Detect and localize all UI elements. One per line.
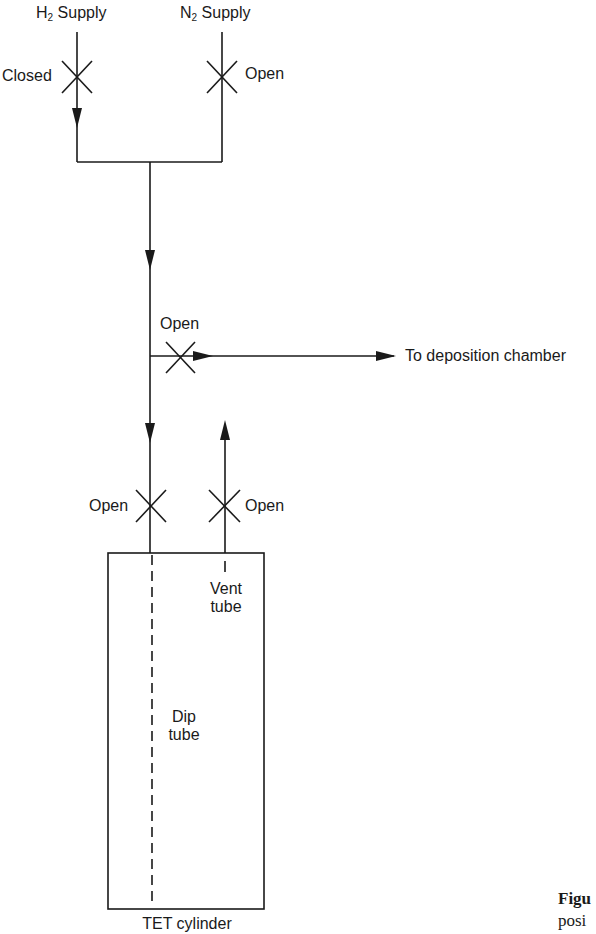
vent-tube-label: Vent tube [203, 580, 249, 616]
outlet-label: To deposition chamber [405, 347, 566, 365]
h2-valve-state-label: Closed [2, 67, 52, 85]
gas-flow-diagram [0, 0, 596, 934]
vent-flow-arrow-icon [220, 420, 230, 440]
figure-caption-fragment: Figu [558, 888, 591, 910]
outlet-arrow-icon [376, 351, 396, 361]
figure-caption-fragment-line2: posi [558, 910, 586, 932]
h2-flow-arrow-icon [72, 108, 82, 128]
n2-valve-state-label: Open [245, 65, 284, 83]
main-flow-arrow-upper-icon [145, 250, 155, 270]
vent-valve-state-label: Open [245, 497, 284, 515]
branch-flow-arrow-icon [193, 351, 213, 361]
dip-tube-label: Dip tube [162, 708, 206, 744]
n2-supply-label: N2 Supply [180, 4, 251, 22]
h2-supply-label: H2 Supply [36, 4, 107, 22]
dip-valve-icon[interactable] [136, 490, 166, 522]
branch-valve-icon[interactable] [166, 342, 195, 373]
tet-cylinder-label: TET cylinder [120, 915, 254, 933]
main-flow-arrow-lower-icon [145, 423, 155, 443]
dip-valve-state-label: Open [89, 497, 128, 515]
branch-valve-state-label: Open [160, 315, 199, 333]
